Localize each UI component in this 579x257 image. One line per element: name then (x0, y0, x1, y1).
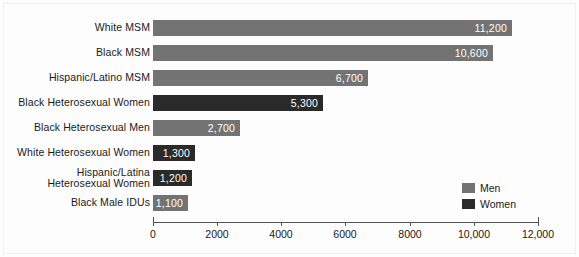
category-label-hispanic-latina-heterosexual-women: Hispanic/Latina Heterosexual Women (47, 167, 150, 189)
bar-value-hispanic-latino-msm: 6,700 (336, 72, 368, 84)
legend-item-men: Men (462, 181, 516, 195)
category-label-black-heterosexual-women: Black Heterosexual Women (18, 97, 150, 108)
legend-label-men: Men (480, 182, 500, 194)
bar-chart: White MSM Black MSM Hispanic/Latino MSM … (0, 0, 579, 257)
bar-hispanic-latino-msm: 6,700 (153, 70, 368, 86)
bar-black-heterosexual-men: 2,700 (153, 120, 240, 136)
x-tick-0 (153, 222, 154, 226)
x-tick-label-10000: 10,000 (458, 228, 490, 240)
x-tick-8000 (410, 222, 411, 226)
bar-value-black-heterosexual-men: 2,700 (208, 122, 240, 134)
x-tick-label-8000: 8000 (398, 228, 421, 240)
x-tick-2000 (217, 222, 218, 226)
x-tick-12000 (538, 222, 539, 226)
bar-value-hispanic-latina-heterosexual-women: 1,200 (160, 172, 192, 184)
category-label-white-msm: White MSM (95, 22, 150, 33)
x-tick-label-6000: 6000 (333, 228, 356, 240)
bar-white-heterosexual-women: 1,300 (153, 145, 195, 161)
x-tick-label-0: 0 (150, 228, 156, 240)
legend-label-women: Women (480, 198, 516, 210)
category-label-black-msm: Black MSM (96, 47, 150, 58)
category-label-hispanic-latino-msm: Hispanic/Latino MSM (49, 72, 150, 83)
x-tick-4000 (281, 222, 282, 226)
category-label-white-heterosexual-women: White Heterosexual Women (17, 147, 150, 158)
category-label-black-male-idus: Black Male IDUs (71, 197, 150, 208)
x-tick-6000 (345, 222, 346, 226)
legend-item-women: Women (462, 197, 516, 211)
bar-value-black-heterosexual-women: 5,300 (291, 97, 323, 109)
bar-value-white-heterosexual-women: 1,300 (163, 147, 195, 159)
bar-black-heterosexual-women: 5,300 (153, 95, 323, 111)
category-label-black-heterosexual-men: Black Heterosexual Men (34, 122, 150, 133)
bar-value-black-male-idus: 1,100 (156, 197, 188, 209)
bar-hispanic-latina-heterosexual-women: 1,200 (153, 170, 192, 186)
chart-legend: Men Women (462, 181, 516, 213)
bar-white-msm: 11,200 (153, 20, 512, 36)
bar-value-white-msm: 11,200 (474, 22, 512, 34)
bar-black-male-idus: 1,100 (153, 195, 188, 211)
x-tick-10000 (474, 222, 475, 226)
x-tick-label-12000: 12,000 (522, 228, 554, 240)
bar-black-msm: 10,600 (153, 45, 493, 61)
chart-page: White MSM Black MSM Hispanic/Latino MSM … (0, 0, 579, 257)
x-tick-label-2000: 2000 (205, 228, 228, 240)
x-tick-label-4000: 4000 (269, 228, 292, 240)
bar-value-black-msm: 10,600 (455, 47, 493, 59)
legend-swatch-women-icon (462, 199, 475, 209)
legend-swatch-men-icon (462, 183, 475, 193)
